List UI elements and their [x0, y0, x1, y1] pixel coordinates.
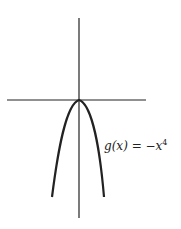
function-label-text: g(x) = −x	[104, 139, 162, 153]
graph	[0, 0, 181, 229]
exponent: 4	[162, 138, 167, 147]
function-label: g(x) = −x4	[104, 138, 167, 153]
curve-g	[52, 100, 104, 197]
